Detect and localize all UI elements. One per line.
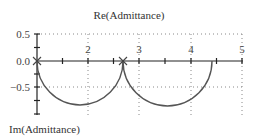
- x-tick-label-3: 3: [136, 43, 142, 55]
- y-axis-label: Im(Admittance): [9, 123, 80, 135]
- semicircle-1: [37, 61, 123, 105]
- y-tick-label-0.5: 0.5: [16, 28, 30, 40]
- x-tick-label-2: 2: [85, 43, 91, 55]
- plot-canvas: 0.5 0.0 −0.5 2 3 4 5: [0, 0, 258, 140]
- x-tick-label-4: 4: [188, 43, 194, 55]
- chart-title: Re(Admittance): [0, 9, 258, 21]
- y-tick-label-0.0: 0.0: [16, 55, 30, 67]
- x-tick-label-5: 5: [239, 43, 245, 55]
- semicircle-2: [123, 61, 212, 106]
- curves: [37, 61, 212, 106]
- admittance-plot: Re(Admittance): [0, 0, 258, 140]
- y-tick-label-neg0.5: −0.5: [10, 81, 30, 93]
